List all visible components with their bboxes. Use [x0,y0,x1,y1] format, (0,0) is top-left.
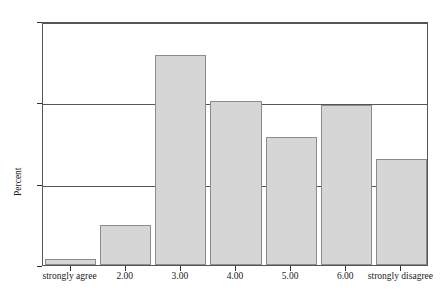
plot-area [42,22,428,266]
x-tick-label: strongly disagree [368,272,433,282]
x-tick-label: 2.00 [116,272,133,282]
bars-group [43,23,427,265]
y-tick-mark [37,266,42,267]
bar [321,105,372,265]
x-tick-label: 6.00 [337,272,354,282]
bar [155,55,206,265]
x-tick-label: 5.00 [282,272,299,282]
bar [266,137,317,265]
bar [100,225,151,265]
bar-chart-figure: Percent 0102030 strongly agree2.003.004.… [0,0,447,300]
bar [210,101,261,265]
x-tick-label: 3.00 [172,272,189,282]
x-tick-label: strongly agree [43,272,97,282]
x-tick-label: 4.00 [227,272,244,282]
bar [45,259,96,265]
y-axis-title: Percent [14,168,24,197]
bar [376,159,427,265]
